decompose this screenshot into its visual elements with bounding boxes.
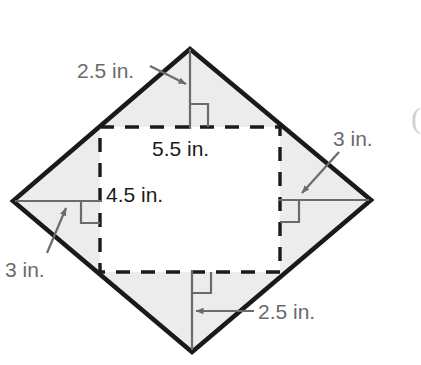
label-bottom-left-3in: 3 in. [5,259,45,280]
figure-canvas [0,0,421,365]
label-right-3in: 3 in. [333,128,373,149]
label-bottom-right-2-5in: 2.5 in. [258,301,315,322]
label-left-inner-4-5in: 4.5 in. [106,184,163,205]
geometry-figure: 2.5 in. 5.5 in. 4.5 in. 3 in. 3 in. 2.5 … [0,0,421,365]
cropped-edge-glyph: ( [411,103,421,133]
label-top-inner-5-5in: 5.5 in. [152,138,209,159]
label-top-left-2-5in: 2.5 in. [77,60,134,81]
